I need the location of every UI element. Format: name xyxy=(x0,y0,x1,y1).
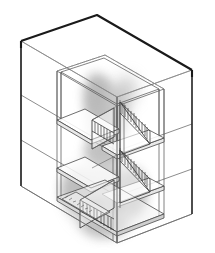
figure-canvas xyxy=(0,0,215,253)
stairwell-axonometric-drawing xyxy=(0,0,215,253)
